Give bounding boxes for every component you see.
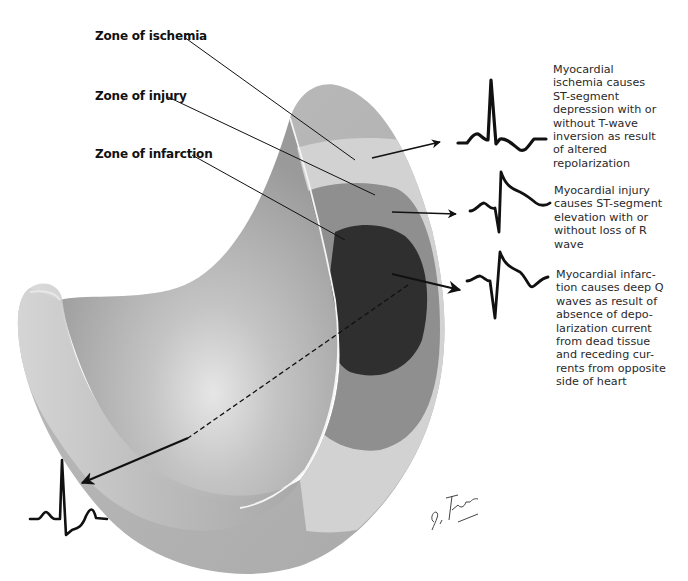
description-ischemia: Myocardial ischemia causes ST-segment de…	[553, 63, 681, 170]
description-injury: Myocardial injury causes ST-segment elev…	[554, 184, 682, 251]
infarction-trace	[467, 252, 548, 318]
heart-wall-section	[18, 84, 457, 574]
ischemia-trace	[458, 80, 546, 150]
infarction-zone	[327, 225, 427, 376]
label-zone-ischemia: Zone of ischemia	[95, 29, 207, 43]
label-zone-infarction: Zone of infarction	[95, 147, 213, 161]
artist-signature	[432, 495, 478, 530]
injury-trace	[470, 172, 550, 232]
label-zone-injury: Zone of injury	[95, 89, 187, 103]
description-infarction: Myocardial infarc- tion causes deep Q wa…	[556, 268, 684, 389]
